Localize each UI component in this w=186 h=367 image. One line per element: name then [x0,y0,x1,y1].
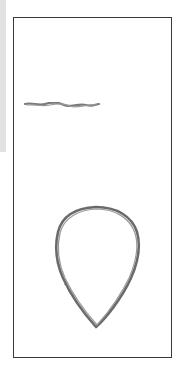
teardrop-shape [56,207,138,327]
sketch-page [0,0,186,367]
sketch-canvas [0,0,186,367]
horizontal-line [25,103,99,107]
